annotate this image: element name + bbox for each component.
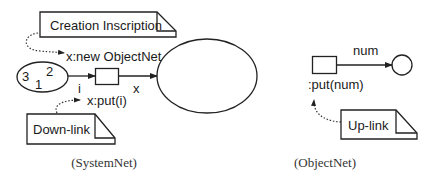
put-num-inscription: :put(num) (308, 77, 364, 92)
object-place-circle (392, 55, 412, 75)
petri-net-diagram: Creation Inscription x:new ObjectNet 3 2… (0, 0, 434, 175)
downlink-inscription-text: x:put(i) (87, 93, 127, 108)
arc-label-x: x (133, 81, 140, 96)
downlink-arrow (56, 100, 80, 113)
uplink-note: Up-link (341, 110, 417, 139)
creation-note-label: Creation Inscription (50, 18, 162, 33)
token-1: 1 (35, 77, 42, 92)
downlink-note-label: Down-link (33, 122, 91, 137)
transition-box (96, 69, 119, 85)
uplink-note-label: Up-link (348, 118, 389, 133)
arc-label-num: num (353, 43, 378, 58)
arc-label-i: i (78, 81, 81, 96)
object-net-place-ellipse (157, 39, 257, 113)
creation-inscription-text: x:new ObjectNet (66, 49, 162, 64)
token-3: 3 (22, 69, 29, 84)
input-place: 3 2 1 (17, 62, 68, 92)
object-transition-box (313, 57, 337, 74)
token-2: 2 (46, 64, 53, 79)
creation-inscription-note: Creation Inscription (40, 12, 176, 37)
downlink-note: Down-link (27, 114, 115, 144)
system-net: Creation Inscription x:new ObjectNet 3 2… (17, 12, 257, 170)
system-net-caption: (SystemNet) (71, 155, 137, 170)
object-net: num :put(num) Up-link (ObjectNet) (294, 43, 417, 170)
object-net-caption: (ObjectNet) (294, 155, 356, 170)
uplink-arrow (314, 100, 341, 122)
